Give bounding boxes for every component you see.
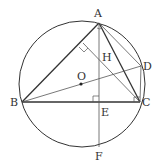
label-b: B <box>10 96 18 109</box>
geometry-diagram: A B C D E F H O <box>0 0 160 166</box>
label-c: C <box>142 96 150 109</box>
label-a: A <box>93 7 103 20</box>
right-angle-mark-ab <box>79 47 88 52</box>
label-f: F <box>95 150 103 163</box>
label-h: H <box>102 51 112 64</box>
label-d: D <box>143 60 152 73</box>
label-e: E <box>101 106 109 119</box>
segment-cd <box>140 66 141 102</box>
label-o: O <box>77 70 86 83</box>
right-angle-mark-e <box>93 96 99 102</box>
